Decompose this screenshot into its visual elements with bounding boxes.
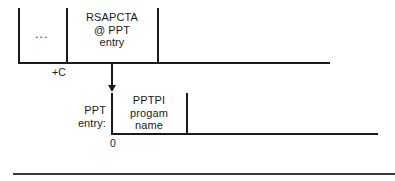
offset-label-zero: 0 — [110, 137, 140, 149]
pointer-arrow-head — [108, 85, 116, 92]
offset-label-plus-c: +C — [52, 66, 92, 78]
pptpi-cell-label: PPTPI progam name — [113, 94, 185, 132]
upper-row-divider-2 — [157, 8, 159, 64]
ellipsis-cell-label: ... — [20, 28, 64, 40]
ppt-entry-row-baseline — [111, 133, 378, 135]
pointer-arrow-shaft — [111, 62, 113, 86]
rsapcta-cell-label: RSAPCTA @ PPT entry — [68, 11, 156, 49]
upper-row-baseline — [18, 62, 330, 64]
ppt-entry-side-label: PPT entry: — [58, 104, 106, 129]
ppt-entry-row-divider-1 — [186, 93, 188, 135]
figure-canvas: ... RSAPCTA @ PPT entry +C PPT entry: PP… — [0, 0, 395, 181]
footer-divider-rule — [13, 173, 395, 175]
